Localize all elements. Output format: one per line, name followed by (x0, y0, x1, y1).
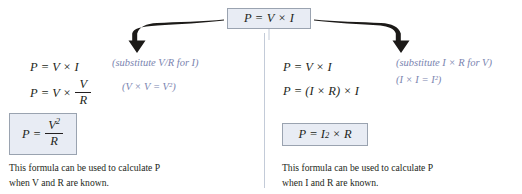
right-note-substitute: (substitute I × R for V) (396, 57, 492, 68)
left-note-square: (V × V = V²) (122, 81, 176, 92)
right-result-equals: = (309, 127, 317, 142)
right-caption-line1: This formula can be used to calculate P (282, 160, 433, 175)
left-step2-prefix: V × (52, 86, 71, 101)
left-result-fraction: V2 R (45, 119, 63, 147)
right-step1-equals: = (294, 60, 302, 75)
right-note-square: (I × I = I²) (396, 74, 441, 85)
left-result-numerator: V (48, 118, 56, 132)
left-equation-block: P = V × I P = V × V (30, 55, 92, 107)
right-result-lhs: P (298, 127, 306, 142)
left-step1-rhs: V × I (52, 60, 78, 75)
left-step1-equals: = (41, 60, 49, 75)
right-step1-lhs: P (283, 60, 291, 75)
right-step2-equals: = (294, 84, 302, 99)
left-step2-fraction: V R (75, 78, 91, 106)
right-step2-rhs: (I × R) × I (305, 84, 359, 99)
right-result-times: × (332, 127, 340, 142)
right-step-2: P = (I × R) × I (283, 79, 359, 103)
left-result-exponent: 2 (56, 116, 60, 126)
left-result-equals: = (33, 127, 41, 142)
left-step2-equals: = (41, 86, 49, 101)
left-step-2: P = V × V R (30, 79, 92, 107)
left-step-1: P = V × I (30, 55, 92, 79)
left-step2-lhs: P (30, 86, 38, 101)
right-step2-lhs: P (283, 84, 291, 99)
power-formula-derivation-diagram: P = V × I P = V × I (0, 0, 522, 194)
left-caption-line2: when V and R are known. (9, 175, 160, 190)
right-caption-line2: when I and R are known. (282, 175, 433, 190)
column-divider (264, 33, 265, 188)
right-step-1: P = V × I (283, 55, 359, 79)
left-caption-line1: This formula can be used to calculate P (9, 160, 160, 175)
left-result-box: P = V2 R (9, 113, 77, 155)
right-result-factor: R (344, 127, 352, 142)
right-branch-column: P = V × I P = (I × R) × I (substitute I … (268, 0, 522, 194)
left-result-lhs: P (22, 127, 30, 142)
left-branch-column: P = V × I P = V × V (0, 0, 264, 194)
left-step2-numerator: V (77, 78, 91, 92)
left-result-denominator: R (47, 134, 61, 148)
left-result-numerator-wrap: V2 (45, 119, 63, 133)
right-caption: This formula can be used to calculate P … (282, 160, 433, 190)
right-step1-rhs: V × I (305, 60, 331, 75)
right-equation-block: P = V × I P = (I × R) × I (283, 55, 359, 103)
left-step1-lhs: P (30, 60, 38, 75)
left-note-substitute: (substitute V/R for I) (112, 57, 199, 68)
left-caption: This formula can be used to calculate P … (9, 160, 160, 190)
right-result-box: P = I2 × R (282, 123, 368, 146)
left-step2-denominator: R (77, 93, 91, 107)
